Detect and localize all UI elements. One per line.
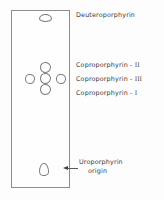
copro-i-spot [40,84,51,95]
label-coproporphyrin-ii: Coproporphyrin - II [76,61,140,69]
origin-arrow-icon [63,166,78,171]
copro-right-spot [56,74,66,85]
deuteroporphyrin-spot [39,14,52,22]
label-coproporphyrin-iii-numeral: III [135,75,142,82]
label-uroporphyrin-origin-line2: origin [88,167,123,176]
copro-left-spot [25,74,35,85]
label-coproporphyrin-i-prefix: Coproporphyrin - [76,89,135,97]
label-coproporphyrin-i: Coproporphyrin - I [76,89,137,97]
label-uroporphyrin-origin: Uroporphyrin origin [79,158,123,175]
chromatogram-figure: Deuteroporphyrin Coproporphyrin - II Cop… [0,0,164,200]
copro-ii-spot [40,62,51,73]
uroporphyrin-origin-spot [39,163,49,176]
label-coproporphyrin-ii-prefix: Coproporphyrin - [76,61,135,69]
label-coproporphyrin-iii: Coproporphyrin - III [76,75,142,83]
label-coproporphyrin-i-numeral: I [135,89,137,96]
label-coproporphyrin-iii-prefix: Coproporphyrin - [76,75,135,83]
chromatography-plate [11,10,70,188]
copro-iii-spot [40,73,51,84]
label-deuteroporphyrin: Deuteroporphyrin [76,11,135,19]
origin-arrow-shaft [67,168,78,169]
label-uroporphyrin-origin-line1: Uroporphyrin [79,158,123,167]
label-coproporphyrin-ii-numeral: II [135,61,140,68]
